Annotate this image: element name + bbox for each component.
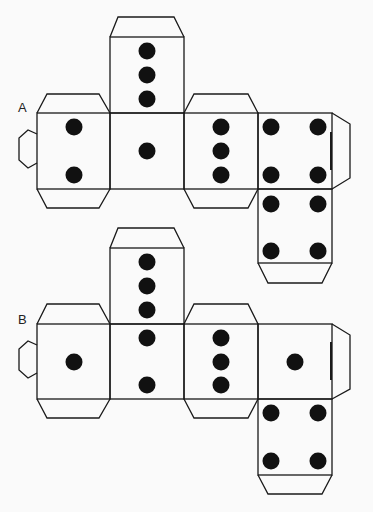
net-a [19,17,350,283]
pip [213,354,230,371]
pip [310,167,327,184]
pip [287,354,304,371]
pip [139,302,156,319]
pip [66,119,83,136]
pip [139,67,156,84]
pip [310,196,327,213]
pip [213,119,230,136]
pip [139,330,156,347]
pip [139,143,156,160]
pip [66,354,83,371]
pip [263,167,280,184]
pip [310,453,327,470]
pip [263,405,280,422]
pip [139,254,156,271]
pip [213,377,230,394]
pip [213,330,230,347]
dice-nets-diagram [0,0,373,512]
pip [139,377,156,394]
pip [310,243,327,260]
pip [139,91,156,108]
pip [213,167,230,184]
pip [263,119,280,136]
pip [66,167,83,184]
pip [263,453,280,470]
pip [213,143,230,160]
pip [263,196,280,213]
pip [139,278,156,295]
pip [263,243,280,260]
pip [310,405,327,422]
pip [139,43,156,60]
pip [310,119,327,136]
